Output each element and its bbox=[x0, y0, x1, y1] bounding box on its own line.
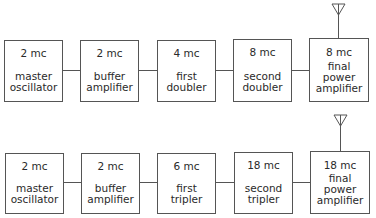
stage-label: second doubler bbox=[234, 71, 291, 93]
connector bbox=[292, 70, 309, 71]
stage-label: master oscillator bbox=[5, 71, 62, 93]
stage-second-tripler: 18 mc second tripler bbox=[234, 152, 293, 214]
stage-frequency: 2 mc bbox=[81, 48, 138, 59]
stage-label: first doubler bbox=[158, 71, 215, 93]
stage-frequency: 2 mc bbox=[5, 48, 62, 59]
stage-frequency: 4 mc bbox=[158, 48, 215, 59]
antenna-feed bbox=[340, 124, 341, 151]
antenna-icon bbox=[331, 3, 346, 16]
stage-label: final power amplifier bbox=[310, 61, 368, 94]
stage-buffer-amplifier: 2 mc buffer amplifier bbox=[80, 40, 139, 102]
stage-label: first tripler bbox=[158, 183, 215, 205]
stage-frequency: 8 mc bbox=[310, 47, 368, 58]
antenna-icon bbox=[333, 114, 348, 127]
stage-frequency: 18 mc bbox=[235, 160, 292, 171]
stage-frequency: 18 mc bbox=[311, 160, 369, 171]
stage-final-power-amplifier: 8 mc final power amplifier bbox=[309, 38, 369, 102]
stage-frequency: 6 mc bbox=[158, 161, 215, 172]
connector bbox=[293, 182, 310, 183]
stage-label: buffer amplifier bbox=[81, 71, 138, 93]
stage-label: final power amplifier bbox=[311, 173, 369, 206]
stage-frequency: 2 mc bbox=[82, 161, 139, 172]
connector bbox=[139, 70, 157, 71]
stage-first-tripler: 6 mc first tripler bbox=[157, 153, 216, 214]
stage-master-oscillator: 2 mc master oscillator bbox=[5, 153, 64, 214]
connector bbox=[216, 70, 233, 71]
stage-label: buffer amplifier bbox=[82, 183, 139, 205]
stage-first-doubler: 4 mc first doubler bbox=[157, 40, 216, 102]
stage-frequency: 2 mc bbox=[6, 161, 63, 172]
stage-master-oscillator: 2 mc master oscillator bbox=[4, 40, 63, 102]
antenna-feed bbox=[338, 13, 339, 38]
stage-buffer-amplifier: 2 mc buffer amplifier bbox=[81, 153, 140, 214]
stage-label: second tripler bbox=[235, 183, 292, 205]
stage-label: master oscillator bbox=[6, 183, 63, 205]
connector bbox=[216, 182, 234, 183]
connector bbox=[64, 182, 81, 183]
stage-final-power-amplifier: 18 mc final power amplifier bbox=[310, 151, 370, 214]
connector bbox=[140, 182, 157, 183]
stage-second-doubler: 8 mc second doubler bbox=[233, 39, 292, 102]
connector bbox=[63, 70, 80, 71]
stage-frequency: 8 mc bbox=[234, 47, 291, 58]
